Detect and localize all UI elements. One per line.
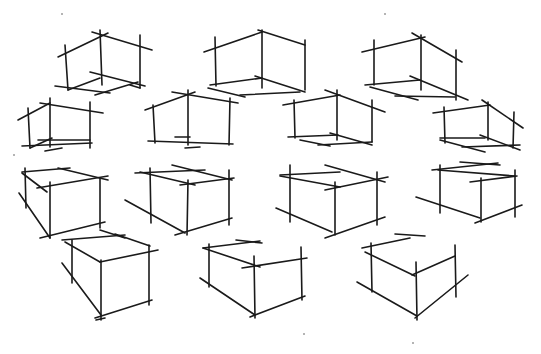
sketch-stroke: [172, 165, 232, 180]
sketch-stroke: [254, 256, 255, 318]
sketch-stroke: [416, 197, 480, 218]
sketch-stroke: [250, 296, 305, 317]
sketched-box-row-1-1: [55, 30, 152, 95]
sketch-stroke: [185, 147, 200, 148]
sketch-stroke: [55, 86, 110, 93]
sketch-stroke: [125, 200, 185, 233]
sketch-stroke: [300, 140, 330, 146]
sketched-box-row-2-5: [145, 90, 238, 148]
sketch-stroke: [229, 98, 230, 145]
sketch-stroke: [416, 262, 417, 320]
sketch-stroke: [365, 252, 415, 276]
sketch-stroke: [415, 275, 468, 318]
sketched-box-row-2-7: [433, 100, 523, 152]
sketch-stroke: [68, 78, 100, 90]
sketch-stroke: [240, 92, 300, 95]
sketch-stroke: [455, 245, 456, 297]
sketch-stroke: [371, 243, 372, 292]
sketch-stroke: [18, 103, 50, 120]
sketch-stroke: [362, 37, 425, 52]
sketch-stroke: [200, 278, 255, 315]
sketch-stroke: [208, 88, 245, 97]
sketch-stroke: [22, 143, 92, 146]
sketch-stroke: [45, 148, 62, 151]
sketch-stroke: [325, 90, 385, 112]
sketch-stroke: [153, 105, 155, 143]
sketch-stroke: [148, 141, 233, 144]
sketch-stroke: [438, 170, 515, 176]
sketch-stroke: [283, 95, 340, 105]
sketch-stroke: [280, 176, 340, 187]
paper-speck: [61, 13, 63, 15]
sketch-stroke: [115, 234, 150, 246]
sketch-stroke: [62, 263, 101, 315]
sketched-box-row-3-8: [19, 168, 125, 238]
sketch-stroke: [96, 318, 105, 320]
sketch-stroke: [95, 300, 152, 318]
sketched-box-row-3-9: [125, 165, 234, 235]
sketch-stroke: [215, 37, 216, 86]
sketch-stroke: [19, 193, 50, 238]
sketch-stroke: [62, 235, 125, 240]
sketch-stroke: [140, 172, 195, 185]
sketch-stroke: [175, 218, 232, 235]
sketch-stroke: [513, 112, 514, 148]
sketch-stroke: [412, 33, 462, 62]
sketch-stroke: [210, 78, 262, 85]
sketched-box-row-3-10: [276, 165, 388, 238]
sketch-stroke: [203, 248, 260, 267]
paper-speck: [13, 154, 15, 156]
sketched-box-row-4-14: [357, 234, 468, 320]
sketched-box-row-4-12: [62, 234, 158, 320]
sketch-stroke: [130, 85, 140, 88]
sketched-box-row-1-3: [362, 33, 468, 100]
sketch-stroke: [433, 105, 490, 113]
sketched-box-row-4-13: [200, 240, 307, 318]
sketch-stroke: [370, 87, 418, 100]
sketch-stroke: [65, 242, 100, 262]
sketch-stroke: [187, 180, 188, 235]
sketch-canvas: [0, 0, 541, 354]
sketch-stroke: [325, 217, 385, 238]
sketch-stroke: [276, 208, 332, 232]
sketched-box-row-3-11: [416, 162, 522, 223]
paper-speck: [412, 342, 414, 344]
sketch-stroke: [301, 247, 302, 300]
sketch-stroke: [362, 238, 410, 248]
sketched-box-row-2-4: [18, 98, 103, 151]
sketch-stroke: [357, 282, 417, 316]
sketch-stroke: [204, 32, 262, 52]
sketch-stroke: [280, 172, 340, 175]
sketch-stroke: [294, 100, 295, 138]
sketch-stroke: [470, 176, 517, 182]
sketch-stroke: [37, 176, 108, 188]
sketch-stroke: [258, 30, 305, 45]
sketched-box-row-2-6: [283, 90, 385, 146]
paper-speck: [303, 333, 305, 335]
sketch-stroke: [242, 258, 307, 268]
paper-speck: [384, 13, 386, 15]
sketch-stroke: [395, 96, 455, 97]
sketch-stroke: [395, 234, 425, 236]
sketched-box-row-1-2: [204, 30, 305, 97]
sketch-stroke: [412, 256, 455, 275]
sketch-stroke: [100, 30, 102, 85]
